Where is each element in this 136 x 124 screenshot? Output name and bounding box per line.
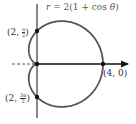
label-suffix: ) <box>25 27 29 37</box>
point-2-pi-over-2 <box>35 29 39 33</box>
cardioid-figure: r = 2(1 + cos θ) (2, π2) (2, 3π2) (4, 0) <box>0 0 136 124</box>
point-2-3pi-over-2 <box>35 95 39 99</box>
point-origin <box>35 62 39 66</box>
label-point-4-0: (4, 0) <box>103 69 127 78</box>
equation-label: r = 2(1 + cos θ) <box>46 3 119 12</box>
point-4-0 <box>101 62 105 66</box>
label-suffix: ) <box>26 93 30 103</box>
polar-plot <box>0 0 136 124</box>
label-point-3pi-over-2: (2, 3π2) <box>5 93 30 104</box>
label-point-pi-over-2: (2, π2) <box>7 27 29 38</box>
label-prefix: (2, <box>5 93 20 103</box>
label-prefix: (2, <box>7 27 22 37</box>
